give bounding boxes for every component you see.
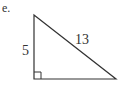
- triangle-outline: [34, 15, 116, 79]
- right-angle-marker-icon: [34, 72, 41, 79]
- triangle-diagram: e. 5 13: [0, 0, 118, 91]
- vertical-leg-length: 5: [22, 44, 29, 58]
- right-triangle: [0, 0, 118, 91]
- hypotenuse-length: 13: [75, 33, 89, 47]
